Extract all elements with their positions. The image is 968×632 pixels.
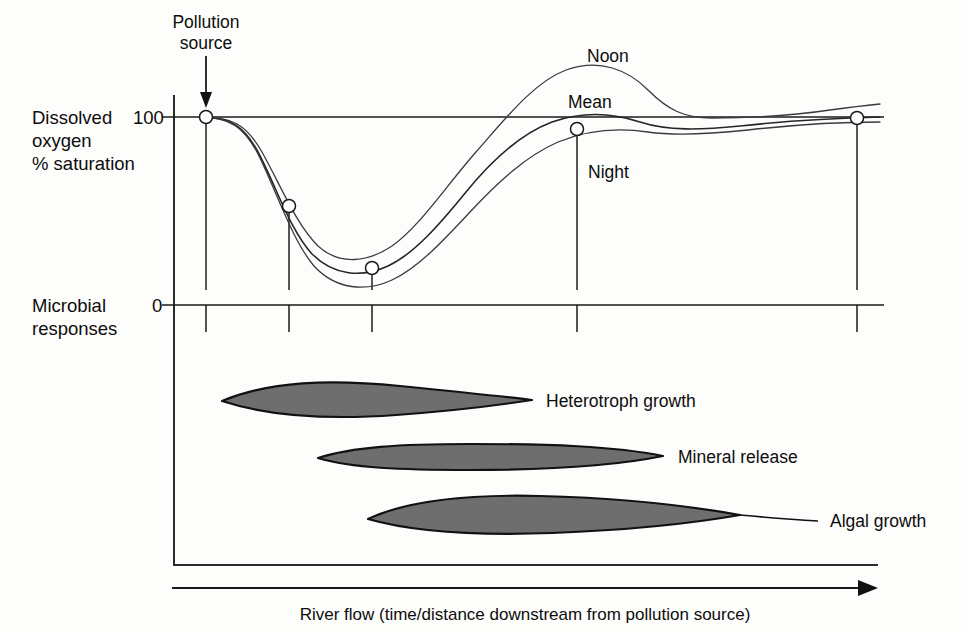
pollution-source-arrow-icon — [200, 56, 212, 108]
river-flow-arrow-icon — [172, 580, 878, 596]
marker-point-5 — [851, 112, 864, 125]
y-axis-label-line-1: Dissolved — [32, 107, 112, 128]
microbial-label-line-1: Microbial — [32, 295, 106, 316]
curve-noon — [200, 65, 880, 259]
band-heterotroph-growth: Heterotroph growth — [222, 382, 696, 417]
marker-point-2 — [283, 200, 296, 213]
band-label-mineral-release: Mineral release — [678, 447, 798, 467]
series-label-noon: Noon — [587, 46, 629, 66]
band-label-algal-growth: Algal growth — [830, 511, 926, 531]
pollution-source-label-line-1: Pollution — [172, 12, 239, 32]
microbial-label-line-2: responses — [32, 318, 117, 339]
band-algal-shape — [368, 496, 740, 534]
oxygen-sag-diagram: Dissolved oxygen % saturation 100 Microb… — [0, 0, 968, 632]
curve-night — [200, 117, 880, 287]
marker-drop-lines — [206, 117, 857, 290]
x-axis-caption: River flow (time/distance downstream fro… — [300, 605, 751, 624]
marker-point-4 — [571, 123, 584, 136]
band-mineral-release: Mineral release — [318, 444, 798, 470]
x-tick-marks — [206, 305, 857, 332]
band-label-heterotroph-growth: Heterotroph growth — [546, 391, 696, 411]
y-axis-label-line-2: oxygen — [32, 130, 92, 151]
band-heterotroph-shape — [222, 382, 532, 417]
pollution-source-label-line-2: source — [180, 33, 233, 53]
figure-container: Dissolved oxygen % saturation 100 Microb… — [0, 0, 968, 632]
marker-point-3 — [366, 262, 379, 275]
y-tick-label-100: 100 — [133, 107, 164, 128]
series-label-mean: Mean — [568, 92, 612, 112]
band-algal-growth: Algal growth — [368, 496, 926, 534]
marker-pollution-source — [200, 111, 213, 124]
band-mineral-shape — [318, 444, 663, 470]
series-label-night: Night — [588, 162, 629, 182]
band-algal-tail — [740, 515, 818, 521]
data-point-markers — [200, 111, 864, 275]
y-tick-label-0: 0 — [152, 295, 162, 316]
y-axis-label-line-3: % saturation — [32, 153, 135, 174]
